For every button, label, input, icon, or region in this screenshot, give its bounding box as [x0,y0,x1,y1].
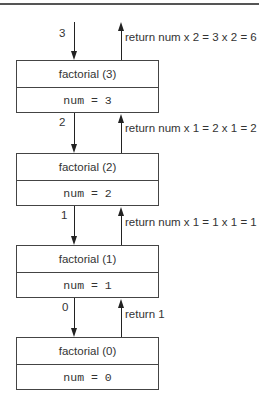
call-arrow-1-head-icon [71,144,77,153]
call-arrow-1-line [74,113,75,145]
return-label-0: return num x 2 = 3 x 2 = 6 [125,31,257,43]
call-arrow-2-head-icon [71,236,77,245]
stack-frame-1: factorial (2) num = 2 [16,153,159,206]
return-arrow-2-head-icon [118,207,124,216]
call-arg-0: 3 [59,27,65,39]
call-arrow-3-line [74,298,75,329]
top-rule [0,3,259,5]
stack-frame-3: factorial (0) num = 0 [16,337,159,390]
stack-frame-2: factorial (1) num = 1 [16,245,159,298]
return-label-1: return num x 1 = 2 x 1 = 2 [125,122,257,134]
return-label-2: return num x 1 = 1 x 1 = 1 [125,216,257,228]
call-arrow-0-line [74,22,75,52]
frame-var: num = 3 [17,88,158,113]
return-arrow-2-line [121,215,122,245]
call-arrow-3-head-icon [71,328,77,337]
return-arrow-0-head-icon [118,22,124,31]
frame-var: num = 1 [17,273,158,298]
return-arrow-3-head-icon [118,299,124,308]
call-arrow-0-head-icon [71,51,77,60]
frame-title: factorial (0) [17,338,158,365]
frame-title: factorial (1) [17,246,158,273]
call-arg-1: 2 [59,116,65,128]
frame-title: factorial (2) [17,154,158,181]
return-arrow-1-head-icon [118,114,124,123]
frame-var: num = 2 [17,181,158,206]
stack-frame-0: factorial (3) num = 3 [16,60,159,113]
call-arg-2: 1 [61,209,67,221]
call-arg-3: 0 [62,301,68,313]
return-arrow-3-line [121,307,122,337]
call-arrow-2-line [74,206,75,237]
frame-title: factorial (3) [17,61,158,88]
frame-var: num = 0 [17,365,158,390]
return-label-3: return 1 [125,308,165,320]
return-arrow-1-line [121,122,122,153]
return-arrow-0-line [121,30,122,60]
